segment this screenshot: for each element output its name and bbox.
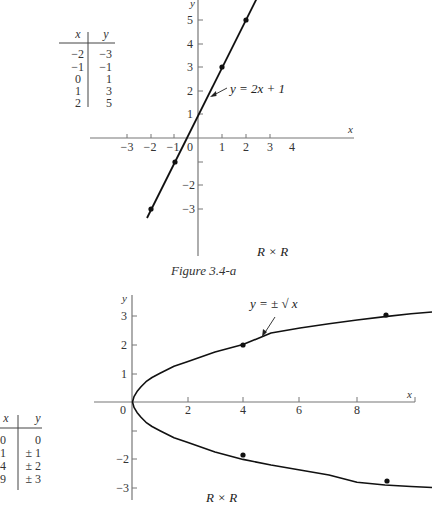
table-b-header-y: y [34,411,41,425]
x-tick-b: 8 [354,403,360,417]
y-tick-b: 3 [121,309,127,323]
table-a-y: −3 [99,47,112,61]
domain-label-b: R × R [205,490,237,505]
figure-b: x y 0 1 4 9 0 ± 1 ± 2 ± 3 x y 0 2 4 6 8 [0,292,432,505]
table-b-x: 0 [0,433,6,447]
table-a-header-y: y [102,27,109,41]
table-b-y: ± 1 [25,446,41,460]
x-tick-a: −3 [121,140,134,154]
table-a-header-x: x [74,27,81,41]
x-tick-a: 1 [219,140,225,154]
table-b-x: 1 [0,446,6,460]
y-tick-b: −2 [116,452,129,466]
origin-label-a: 0 [187,140,193,154]
y-tick-b: 2 [121,338,127,352]
figure-b-table: x y 0 1 4 9 0 ± 1 ± 2 ± 3 [0,411,42,490]
table-a-y: 5 [106,96,112,110]
figure-a-table: x y −2 −1 0 1 2 −3 −1 1 3 5 [59,27,115,110]
x-tick-a: −2 [144,140,157,154]
y-tick-a: 1 [187,107,193,121]
table-b-x: 4 [0,459,6,473]
y-tick-a: −2 [182,178,195,192]
y-tick-a: −3 [182,202,195,216]
table-b-header-x: x [2,411,9,425]
x-axis-label-b: x [406,388,412,400]
y-axis-label-b: y [121,292,127,304]
x-tick-a: 3 [267,140,273,154]
data-points-b [240,312,389,483]
domain-label-a: R × R [256,244,288,259]
y-tick-b: 1 [121,367,127,381]
y-tick-a: 5 [187,13,193,27]
x-tick-b: 6 [296,403,302,417]
y-tick-a: 3 [187,60,193,74]
curve-y-plus-minus-sqrt-x [133,312,433,488]
table-a-x: −2 [71,47,84,61]
table-b-y: ± 2 [25,459,41,473]
equation-label-a: y = 2x + 1 [228,81,285,96]
origin-label-b: 0 [120,403,126,417]
y-tick-a: 2 [187,84,193,98]
table-b-x: 9 [0,472,6,486]
x-axis-label-a: x [347,123,353,135]
equation-label-b: y = ± √ x [248,296,298,311]
table-b-y: 0 [35,433,41,447]
table-b-y: ± 3 [25,472,41,486]
x-tick-b: 4 [240,403,246,417]
figure-caption-a: Figure 3.4-a [170,263,237,278]
table-a-x: 2 [75,96,81,110]
figure-canvas: x y −2 −1 0 1 2 −3 −1 1 3 5 x y −3 −2 [0,0,442,520]
x-tick-a: 2 [243,140,249,154]
y-tick-b: −3 [116,481,129,495]
figure-a: x y −2 −1 0 1 2 −3 −1 1 3 5 x y −3 −2 [59,0,354,278]
x-tick-a: −1 [167,140,180,154]
x-tick-a: 4 [289,140,295,154]
y-tick-a: 4 [187,37,193,51]
y-axis-label-a: y [189,0,195,9]
x-tick-b: 2 [185,403,191,417]
